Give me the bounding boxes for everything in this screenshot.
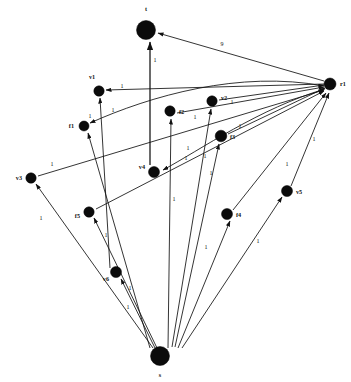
node-label-t: t — [145, 5, 148, 12]
graph-edge — [121, 279, 155, 348]
node-label-v2: v2 — [221, 94, 227, 101]
node-circle[interactable] — [94, 86, 104, 96]
graph-node-v1[interactable] — [94, 86, 104, 96]
node-label-v6: v6 — [103, 275, 109, 282]
graph-edge — [182, 197, 282, 348]
node-label-f2: f2 — [179, 108, 184, 115]
graph-edge — [233, 93, 326, 210]
graph-node-v2[interactable] — [207, 96, 217, 106]
edge-capacity-label: 1 — [313, 136, 316, 142]
graph-node-v6[interactable] — [111, 267, 122, 278]
node-label-v5: v5 — [296, 188, 302, 195]
graph-edge — [168, 119, 171, 348]
node-label-r1: r1 — [340, 80, 346, 87]
node-label-v1: v1 — [89, 73, 95, 80]
edge-capacity-label: 1 — [210, 170, 213, 176]
node-circle[interactable] — [324, 78, 336, 90]
flow-network-diagram: 1911111111111111111111 tr1v1f1f2v2f3v4v3… — [0, 0, 351, 382]
node-label-f5: f5 — [75, 212, 80, 219]
edge-capacity-label: 1 — [173, 196, 176, 202]
graph-edge — [178, 221, 230, 348]
node-label-v4: v4 — [139, 163, 145, 170]
node-circle[interactable] — [215, 130, 227, 142]
edge-capacity-label: 1 — [105, 232, 108, 238]
graph-node-s[interactable] — [151, 347, 170, 366]
node-label-f1: f1 — [69, 122, 74, 129]
edge-capacity-label: 1 — [286, 161, 289, 167]
graph-edge — [38, 90, 324, 176]
edge-capacity-label: 1 — [112, 107, 115, 113]
edge-capacity-label: 1 — [129, 285, 132, 291]
edge-capacity-label: 1 — [51, 161, 54, 167]
edge-capacity-label: 9 — [221, 41, 224, 47]
edge-capacity-label: 1 — [121, 83, 124, 89]
node-circle[interactable] — [137, 21, 156, 40]
node-label-v3: v3 — [16, 174, 22, 181]
edge-capacity-label: 1 — [194, 114, 197, 120]
graph-edge — [291, 93, 329, 186]
edge-capacity-label: 1 — [187, 145, 190, 151]
graph-edge — [106, 84, 324, 90]
graph-edge — [219, 85, 324, 100]
graph-edge — [177, 87, 324, 113]
graph-node-f1[interactable] — [79, 121, 89, 131]
edge-capacity-label: 1 — [204, 153, 207, 159]
node-circle[interactable] — [84, 207, 94, 217]
node-circle[interactable] — [207, 96, 217, 106]
graph-node-v3[interactable] — [26, 173, 36, 183]
graph-edge — [36, 184, 153, 348]
nodes-layer — [26, 21, 336, 366]
graph-node-v5[interactable] — [282, 186, 293, 197]
edge-capacity-label: 1 — [89, 113, 92, 119]
graph-edge — [100, 98, 110, 268]
graph-edge — [228, 88, 325, 134]
node-circle[interactable] — [151, 347, 170, 366]
graph-edge — [172, 109, 211, 347]
node-label-f3: f3 — [230, 133, 235, 140]
graph-node-t[interactable] — [137, 21, 156, 40]
graph-node-f2[interactable] — [165, 106, 175, 116]
edge-capacity-label: 1 — [239, 123, 242, 129]
edge-capacity-label: 1 — [257, 238, 260, 244]
node-circle[interactable] — [165, 106, 175, 116]
graph-node-f3[interactable] — [215, 130, 227, 142]
edge-capacity-label: 1 — [231, 99, 234, 105]
edge-capacity-label: 1 — [154, 57, 157, 63]
edge-capacity-label: 1 — [127, 304, 130, 310]
graph-edge — [158, 33, 324, 81]
edge-capacity-label: 1 — [40, 215, 43, 221]
graph-canvas: 1911111111111111111111 tr1v1f1f2v2f3v4v3… — [0, 0, 351, 382]
node-circle[interactable] — [26, 173, 36, 183]
node-circle[interactable] — [282, 186, 293, 197]
edge-capacity-label: 1 — [205, 244, 208, 250]
graph-node-f5[interactable] — [84, 207, 94, 217]
node-label-f4: f4 — [236, 211, 241, 218]
node-circle[interactable] — [111, 267, 122, 278]
node-circle[interactable] — [79, 121, 89, 131]
graph-node-v4[interactable] — [149, 167, 160, 178]
node-label-s: s — [159, 371, 162, 378]
node-circle[interactable] — [149, 167, 160, 178]
graph-node-r1[interactable] — [324, 78, 336, 90]
edge-capacity-label: 1 — [185, 155, 188, 161]
graph-node-f4[interactable] — [222, 209, 233, 220]
node-circle[interactable] — [222, 209, 233, 220]
graph-edge — [94, 218, 157, 348]
